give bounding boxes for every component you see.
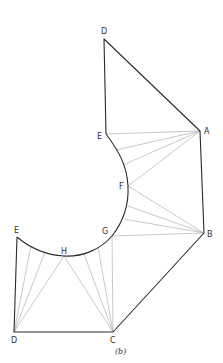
label-e-top: E: [97, 132, 102, 141]
label-f: F: [119, 182, 124, 191]
pattern-development-diagram: D E A F B G H E D C (b): [0, 0, 223, 363]
label-a: A: [204, 127, 210, 136]
label-h: H: [61, 247, 67, 256]
label-e-left: E: [14, 226, 19, 235]
label-c: C: [110, 336, 116, 345]
label-b: B: [207, 230, 213, 239]
label-g: G: [102, 227, 108, 236]
label-d-top: D: [101, 27, 107, 36]
triangulation-lines: [14, 131, 204, 332]
curved-edge-arc: [17, 134, 128, 256]
label-d-bottom: D: [11, 336, 17, 345]
figure-caption: (b): [115, 347, 126, 356]
